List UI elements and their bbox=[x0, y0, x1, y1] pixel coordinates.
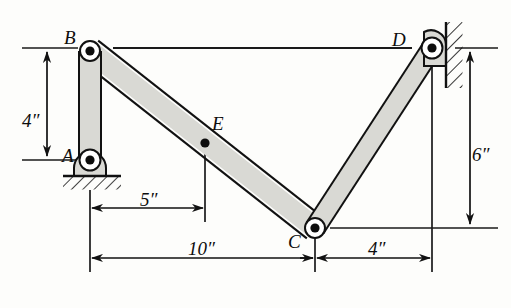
pin-C-center bbox=[310, 223, 319, 232]
point-E bbox=[200, 138, 209, 147]
point-label-C: C bbox=[288, 232, 301, 251]
point-label-B: B bbox=[64, 28, 76, 47]
wall-hatching bbox=[447, 22, 463, 88]
point-label-D: D bbox=[392, 30, 406, 49]
pin-D-center bbox=[427, 43, 436, 52]
dimension-label-4in-right: 4″ bbox=[368, 239, 385, 258]
link-AB[interactable] bbox=[79, 51, 101, 160]
pin-A-center bbox=[85, 155, 94, 164]
ground-hatching bbox=[63, 177, 121, 190]
point-label-E: E bbox=[212, 114, 224, 133]
pin-B-center bbox=[85, 46, 94, 55]
linkage-drawing bbox=[0, 0, 511, 308]
dimension-label-4in-left: 4″ bbox=[22, 111, 39, 130]
pin-support-D[interactable] bbox=[422, 22, 463, 88]
dimension-label-5in: 5″ bbox=[140, 190, 157, 209]
link-CD[interactable] bbox=[307, 43, 441, 234]
dimension-label-6in: 6″ bbox=[472, 145, 489, 164]
point-label-A: A bbox=[62, 146, 74, 165]
dimension-label-10in: 10″ bbox=[188, 239, 215, 258]
figure-canvas: A B C D E 4″ 5″ 10″ 4″ 6″ bbox=[0, 0, 511, 308]
